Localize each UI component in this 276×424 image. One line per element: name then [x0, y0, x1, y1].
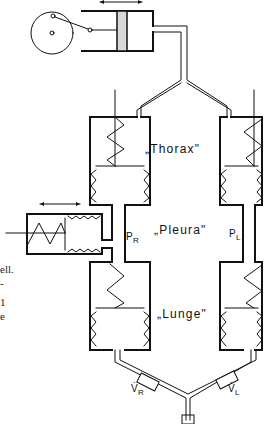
cutoff-text-3: 1	[0, 296, 6, 308]
lunge-label: „Lunge"	[157, 307, 207, 321]
lung-model-diagram: „Thorax" „Pleura" „Lunge" P R P L V̇ R V…	[0, 0, 276, 424]
svg-text:P: P	[126, 231, 133, 242]
right-pleura-channel	[102, 205, 125, 262]
crank-wheel	[31, 12, 117, 54]
cutoff-text-4: e	[0, 310, 5, 322]
left-pleura-channel	[243, 205, 255, 262]
pressure-right-symbol: P R	[126, 231, 139, 245]
supply-tube	[137, 26, 231, 117]
svg-text:L: L	[236, 233, 241, 242]
flow-left-symbol: V̇ L	[228, 382, 240, 397]
cutoff-text-2: -	[0, 277, 4, 289]
drive-piston-cylinder	[82, 0, 153, 51]
svg-text:R: R	[138, 388, 144, 397]
svg-text:V̇: V̇	[228, 382, 235, 394]
pleura-pump-cylinder	[6, 202, 102, 254]
right-lung-chamber	[90, 262, 150, 350]
thorax-label: „Thorax"	[145, 142, 200, 156]
cutoff-text-1: ell.	[0, 263, 14, 275]
svg-text:P: P	[229, 228, 236, 239]
svg-text:L: L	[235, 388, 240, 397]
svg-text:V̇: V̇	[131, 382, 138, 394]
pleura-label: „Pleura"	[154, 223, 207, 237]
left-airway-resistance	[216, 371, 238, 389]
left-lung-chamber	[220, 262, 262, 350]
svg-text:R: R	[133, 236, 139, 245]
pressure-left-symbol: P L	[229, 228, 241, 242]
